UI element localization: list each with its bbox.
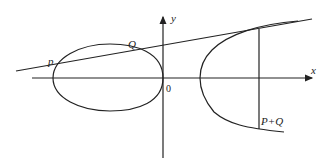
label-origin: 0 — [166, 83, 171, 94]
curve-unbounded-component — [200, 21, 298, 132]
label-y-axis: y — [170, 12, 176, 24]
label-x-axis: x — [310, 64, 316, 76]
label-p: p — [47, 55, 54, 67]
label-p-plus-q: P+Q — [260, 115, 283, 127]
secant-line — [16, 19, 312, 71]
elliptic-curve-diagram: p Q y x 0 P+Q — [0, 0, 327, 158]
label-q: Q — [128, 38, 136, 50]
